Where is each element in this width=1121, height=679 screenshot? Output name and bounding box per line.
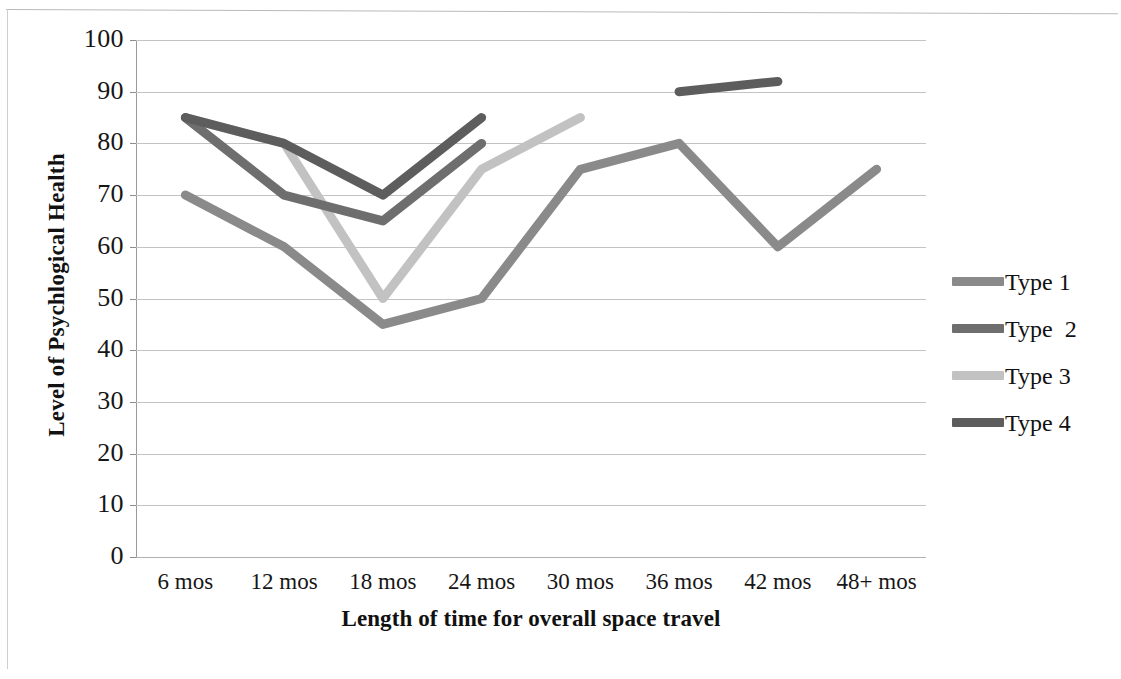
legend-item-type-2[interactable]: Type 2: [952, 305, 1120, 352]
legend-item-type-3[interactable]: Type 3: [952, 352, 1120, 399]
legend-item-type-4[interactable]: Type 4: [952, 399, 1120, 446]
legend-label: Type 4: [1005, 411, 1071, 435]
y-tick-label-0: 0: [66, 543, 124, 569]
legend-swatch-icon: [952, 324, 1004, 333]
y-axis-tick-labels: 1009080706050403020100: [62, 40, 124, 557]
y-tick-label-60: 60: [66, 233, 124, 259]
y-tick-label-40: 40: [66, 336, 124, 362]
legend-swatch-icon: [952, 277, 1004, 286]
legend-label: Type 2: [1005, 317, 1077, 341]
y-tick-label-90: 90: [66, 78, 124, 104]
chart-legend: Type 1Type 2Type 3Type 4: [952, 258, 1120, 446]
x-axis-title: Length of time for overall space travel: [136, 606, 926, 632]
legend-label: Type 3: [1005, 364, 1071, 388]
series-line-type-4-seg2: [679, 81, 778, 91]
series-line-type-1: [185, 143, 876, 324]
legend-item-type-1[interactable]: Type 1: [952, 258, 1120, 305]
legend-label: Type 1: [1005, 270, 1071, 294]
series-lines: [136, 40, 926, 557]
legend-swatch-icon: [952, 418, 1004, 427]
y-tick-label-30: 30: [66, 388, 124, 414]
series-line-type-3: [185, 118, 580, 299]
gridline-0: [136, 557, 926, 558]
x-axis-tick-labels: 6 mos12 mos18 mos24 mos30 mos36 mos42 mo…: [136, 568, 926, 600]
y-tick-label-50: 50: [66, 285, 124, 311]
x-tick-label-48-mos: 48+ mos: [817, 568, 937, 596]
y-tick-label-100: 100: [66, 26, 124, 52]
legend-swatch-icon: [952, 371, 1004, 380]
y-tick-label-70: 70: [66, 181, 124, 207]
chart-page: Level of Psychlogical Health 10090807060…: [0, 0, 1121, 679]
y-axis-tick-0: [130, 557, 136, 558]
y-tick-label-20: 20: [66, 440, 124, 466]
y-tick-label-10: 10: [66, 491, 124, 517]
y-tick-label-80: 80: [66, 129, 124, 155]
